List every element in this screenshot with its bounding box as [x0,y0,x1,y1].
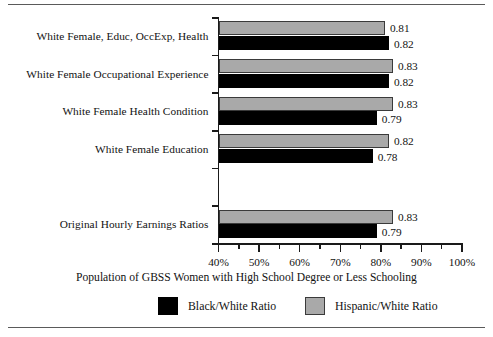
x-axis-tick-label: 100% [437,256,487,268]
legend-item-hispanic-white: Hispanic/White Ratio [305,297,438,315]
bar-black-white [219,224,377,238]
bar-chart: 40%50%60%70%80%90%100%White Female, Educ… [0,0,493,337]
x-axis-tick-minor [360,245,362,249]
bar-hispanic-white [219,21,385,35]
bar-value-label: 0.79 [382,113,402,125]
bar-hispanic-white [219,210,394,224]
y-axis-tick [212,55,218,57]
x-axis-tick-major [218,245,220,252]
y-axis-tick [212,92,218,94]
legend-swatch-black [158,297,178,315]
x-axis-tick-minor [441,245,443,249]
x-axis-tick-minor [319,245,321,249]
legend-item-black-white: Black/White Ratio [158,297,276,315]
x-axis-tick-major [258,245,260,252]
bar-black-white [219,111,377,125]
bar-value-label: 0.82 [394,135,414,147]
x-axis-tick-minor [238,245,240,249]
legend-label-hispanic: Hispanic/White Ratio [335,300,438,313]
y-axis-tick [212,243,218,245]
category-label: Original Hourly Earnings Ratios [60,218,209,230]
bar-value-label: 0.83 [398,60,418,72]
bar-hispanic-white [219,134,389,148]
bar-value-label: 0.82 [394,76,414,88]
bar-value-label: 0.83 [398,211,418,223]
category-label: White Female Education [95,143,208,155]
x-axis-tick-major [380,245,382,252]
x-axis-tick-major [340,245,342,252]
legend-swatch-gray [305,297,325,315]
bar-value-label: 0.78 [378,151,398,163]
legend-label-black: Black/White Ratio [188,300,276,313]
category-label: White Female, Educ, OccExp, Health [36,30,208,42]
bar-value-label: 0.83 [398,98,418,110]
x-axis-tick-major [421,245,423,252]
bar-black-white [219,36,389,50]
bar-value-label: 0.79 [382,226,402,238]
category-label: White Female Occupational Experience [26,68,208,80]
x-axis-tick-minor [400,245,402,249]
category-label: White Female Health Condition [62,105,208,117]
bar-hispanic-white [219,59,394,73]
y-axis-tick [212,168,218,170]
x-axis-title: Population of GBSS Women with High Schoo… [0,271,493,284]
bar-value-label: 0.81 [390,22,410,34]
bar-value-label: 0.82 [394,38,414,50]
y-axis-tick [212,205,218,207]
bar-black-white [219,74,389,88]
y-axis-tick [212,130,218,132]
x-axis-tick-major [299,245,301,252]
bar-black-white [219,149,373,163]
x-axis-tick-minor [279,245,281,249]
y-axis-tick [212,17,218,19]
x-axis-tick-major [461,245,463,252]
bar-hispanic-white [219,97,394,111]
